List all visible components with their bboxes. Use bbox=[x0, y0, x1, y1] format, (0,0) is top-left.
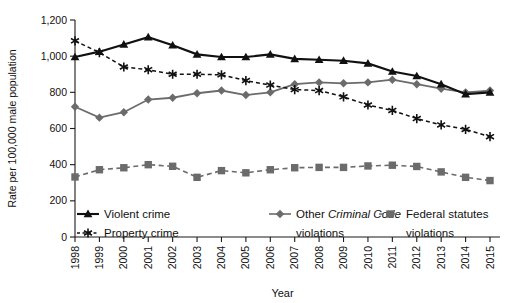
x-tick-label: 2013 bbox=[435, 246, 447, 270]
marker-diamond bbox=[144, 95, 152, 103]
line-chart: 02004006008001,0001,20019981999200020012… bbox=[0, 0, 515, 303]
legend-label-other-criminal-code-line2: violations bbox=[296, 227, 344, 239]
marker-square bbox=[145, 161, 152, 168]
x-tick-label: 2006 bbox=[264, 246, 276, 270]
marker-diamond bbox=[413, 80, 421, 88]
marker-square bbox=[120, 164, 127, 171]
y-tick-label: 400 bbox=[49, 158, 67, 170]
marker-triangle bbox=[144, 33, 153, 41]
x-tick-label: 1998 bbox=[69, 246, 81, 270]
y-tick-label: 0 bbox=[61, 231, 67, 243]
legend-label-federal-statutes: Federal statutes bbox=[406, 208, 489, 220]
marker-diamond bbox=[193, 89, 201, 97]
x-tick-label: 2015 bbox=[484, 246, 496, 270]
x-tick-label: 2000 bbox=[117, 246, 129, 270]
x-tick-label: 2008 bbox=[313, 246, 325, 270]
chart-container: 02004006008001,0001,20019981999200020012… bbox=[0, 0, 515, 303]
marker-square bbox=[315, 164, 322, 171]
marker-square bbox=[462, 174, 469, 181]
x-tick-label: 2004 bbox=[215, 246, 227, 270]
y-tick-label: 800 bbox=[49, 86, 67, 98]
marker-asterisk bbox=[437, 120, 445, 129]
marker-square bbox=[218, 167, 225, 174]
marker-square bbox=[486, 177, 493, 184]
marker-diamond bbox=[242, 91, 250, 99]
series-line-square bbox=[75, 165, 490, 181]
marker-square bbox=[340, 164, 347, 171]
marker-square bbox=[389, 162, 396, 169]
series-line-diamond bbox=[75, 80, 490, 118]
y-tick-label: 200 bbox=[49, 194, 67, 206]
marker-square bbox=[267, 166, 274, 173]
x-tick-label: 2002 bbox=[166, 246, 178, 270]
marker-square bbox=[169, 163, 176, 170]
legend-label-federal-statutes-line2: violations bbox=[406, 227, 454, 239]
x-tick-label: 2007 bbox=[288, 246, 300, 270]
marker-square bbox=[291, 164, 298, 171]
marker-square bbox=[242, 169, 249, 176]
marker-asterisk bbox=[364, 100, 372, 109]
x-axis-title: Year bbox=[271, 287, 294, 299]
marker-square bbox=[413, 163, 420, 170]
y-tick-label: 600 bbox=[49, 122, 67, 134]
marker-square bbox=[364, 162, 371, 169]
x-tick-label: 2014 bbox=[459, 246, 471, 270]
marker-diamond bbox=[95, 113, 103, 121]
legend-label-other-criminal-code: Other Criminal Code bbox=[296, 208, 401, 220]
marker-diamond bbox=[217, 86, 225, 94]
marker-diamond bbox=[71, 103, 79, 111]
marker-diamond bbox=[276, 210, 284, 218]
marker-diamond bbox=[388, 75, 396, 83]
x-tick-label: 2005 bbox=[239, 246, 251, 270]
x-tick-label: 2009 bbox=[337, 246, 349, 270]
x-tick-label: 1999 bbox=[93, 246, 105, 270]
x-tick-label: 2003 bbox=[191, 246, 203, 270]
legend-label-property-crime: Property crime bbox=[104, 227, 179, 239]
marker-square bbox=[437, 168, 444, 175]
marker-diamond bbox=[168, 94, 176, 102]
marker-square bbox=[193, 174, 200, 181]
marker-square bbox=[71, 173, 78, 180]
y-tick-label: 1,200 bbox=[41, 14, 67, 26]
marker-asterisk bbox=[388, 106, 396, 115]
x-tick-label: 2010 bbox=[362, 246, 374, 270]
marker-square bbox=[96, 166, 103, 173]
marker-asterisk bbox=[71, 36, 79, 45]
marker-diamond bbox=[315, 78, 323, 86]
marker-diamond bbox=[120, 108, 128, 116]
marker-asterisk bbox=[486, 132, 494, 141]
marker-diamond bbox=[339, 79, 347, 87]
x-tick-label: 2012 bbox=[410, 246, 422, 270]
y-axis-title: Rate per 100,000 male population bbox=[6, 49, 18, 207]
x-tick-label: 2011 bbox=[386, 246, 398, 269]
marker-diamond bbox=[364, 78, 372, 86]
y-tick-label: 1,000 bbox=[41, 50, 67, 62]
marker-square bbox=[386, 210, 393, 217]
x-tick-label: 2001 bbox=[142, 246, 154, 270]
legend-label-violent-crime: Violent crime bbox=[104, 208, 170, 220]
